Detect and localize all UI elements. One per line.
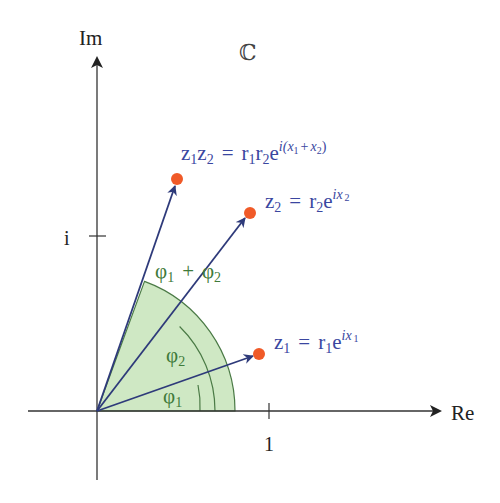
point-z1z2 <box>171 173 183 185</box>
point-z1 <box>253 348 265 360</box>
complex-plane-diagram: Im Re 1 i ℂ z1z2=r1r2ei(x1+x2) z2=r2eix2… <box>0 0 500 503</box>
svg-text:z2=r2eix2: z2=r2eix2 <box>265 187 350 215</box>
complex-field-symbol: ℂ <box>239 40 257 65</box>
svg-text:φ1+φ2: φ1+φ2 <box>155 259 221 285</box>
angle-label-sum: φ1+φ2 <box>155 259 221 285</box>
label-z2: z2=r2eix2 <box>265 187 350 215</box>
svg-text:z1z2=r1r2ei(x1+x2): z1z2=r1r2ei(x1+x2) <box>181 139 327 167</box>
y-axis-label: Im <box>79 26 102 50</box>
svg-text:z1=r1eix1: z1=r1eix1 <box>274 328 359 356</box>
point-z2 <box>244 207 256 219</box>
label-z1: z1=r1eix1 <box>274 328 359 356</box>
label-z1z2: z1z2=r1r2ei(x1+x2) <box>181 139 327 167</box>
y-tick-label: i <box>64 227 70 249</box>
x-axis-label: Re <box>451 401 474 425</box>
x-tick-label: 1 <box>264 433 274 455</box>
